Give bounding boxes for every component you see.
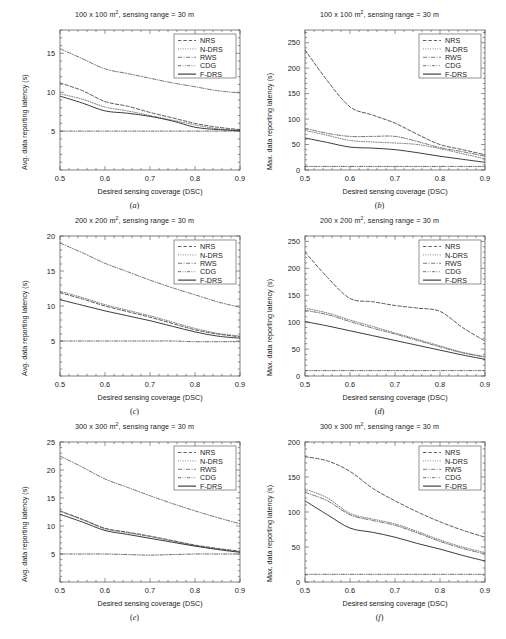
x-tick-label: 0.7 bbox=[145, 380, 155, 389]
y-tick-label: 0 bbox=[296, 166, 300, 175]
curve-n-drs bbox=[305, 130, 485, 159]
x-tick-label: 0.8 bbox=[435, 380, 445, 389]
x-tick-label: 0.6 bbox=[100, 586, 110, 595]
subplot-b: 100 x 100 m2, sensing range = 30 mMax. d… bbox=[253, 8, 506, 221]
subplot-d: 200 x 200 m2, sensing range = 30 mMax. d… bbox=[253, 214, 506, 427]
x-tick-label: 0.7 bbox=[145, 586, 155, 595]
y-tick-label: 50 bbox=[292, 345, 300, 354]
curve-f-drs bbox=[60, 514, 240, 552]
y-tick-label: 5 bbox=[51, 550, 55, 559]
curve-f-drs bbox=[305, 322, 485, 360]
curve-nrs bbox=[60, 511, 240, 551]
y-tick-label: 25 bbox=[47, 438, 55, 447]
x-tick-label: 0.8 bbox=[190, 174, 200, 183]
x-tick-label: 0.9 bbox=[480, 380, 490, 389]
figure-six-panel-line-charts: 100 x 100 m2, sensing range = 30 mAvg. d… bbox=[0, 0, 506, 639]
curve-n-drs bbox=[305, 489, 485, 553]
y-tick-label: 150 bbox=[288, 291, 300, 300]
legend-label-f-drs: F-DRS bbox=[200, 276, 222, 285]
legend-d: NRSN-DRSRWSCDGF-DRS bbox=[419, 240, 481, 285]
x-tick-label: 0.8 bbox=[190, 586, 200, 595]
y-tick-label: 150 bbox=[288, 473, 300, 482]
legend-c: NRSN-DRSRWSCDGF-DRS bbox=[174, 240, 236, 285]
x-tick-label: 0.9 bbox=[235, 380, 245, 389]
y-tick-label: 200 bbox=[288, 64, 300, 73]
x-tick-label: 0.8 bbox=[190, 380, 200, 389]
curve-cdg bbox=[60, 554, 240, 555]
x-tick-label: 0.5 bbox=[55, 586, 65, 595]
y-tick-label: 0 bbox=[296, 372, 300, 381]
x-tick-label: 0.9 bbox=[480, 174, 490, 183]
legend-label-f-drs: F-DRS bbox=[445, 70, 467, 79]
x-tick-label: 0.5 bbox=[55, 174, 65, 183]
legend-e: NRSN-DRSRWSCDGF-DRS bbox=[174, 446, 236, 491]
y-tick-label: 15 bbox=[47, 267, 55, 276]
plot-area-a: 0.50.60.70.80.951015NRSN-DRSRWSCDGF-DRS bbox=[8, 8, 261, 208]
plot-area-c: 0.50.60.70.80.95101520NRSN-DRSRWSCDGF-DR… bbox=[8, 214, 261, 414]
y-tick-label: 10 bbox=[47, 522, 55, 531]
curve-f-drs bbox=[305, 138, 485, 162]
y-tick-label: 100 bbox=[288, 318, 300, 327]
y-tick-label: 100 bbox=[288, 508, 300, 517]
curve-n-drs bbox=[60, 511, 240, 551]
y-tick-label: 15 bbox=[47, 49, 55, 58]
curve-rws bbox=[305, 492, 485, 554]
x-tick-label: 0.7 bbox=[390, 380, 400, 389]
legend-f: NRSN-DRSRWSCDGF-DRS bbox=[419, 446, 481, 491]
subplot-c: 200 x 200 m2, sensing range = 30 mAvg. d… bbox=[8, 214, 261, 427]
x-tick-label: 0.6 bbox=[345, 174, 355, 183]
y-tick-label: 250 bbox=[288, 237, 300, 246]
subplot-f: 300 x 300 m2, sensing range = 30 mMax. d… bbox=[253, 420, 506, 633]
x-tick-label: 0.5 bbox=[300, 586, 310, 595]
y-tick-label: 5 bbox=[51, 127, 55, 136]
y-tick-label: 10 bbox=[47, 302, 55, 311]
legend-b: NRSN-DRSRWSCDGF-DRS bbox=[419, 34, 481, 79]
subplot-a: 100 x 100 m2, sensing range = 30 mAvg. d… bbox=[8, 8, 261, 221]
y-tick-label: 200 bbox=[288, 264, 300, 273]
y-tick-label: 20 bbox=[47, 466, 55, 475]
curve-nrs bbox=[60, 293, 240, 337]
y-tick-label: 250 bbox=[288, 38, 300, 47]
plot-area-b: 0.50.60.70.80.9050100150200250NRSN-DRSRW… bbox=[253, 8, 506, 208]
x-tick-label: 0.9 bbox=[235, 586, 245, 595]
x-tick-label: 0.7 bbox=[145, 174, 155, 183]
curve-rws bbox=[305, 128, 485, 156]
x-tick-label: 0.6 bbox=[345, 380, 355, 389]
x-tick-label: 0.9 bbox=[235, 174, 245, 183]
y-tick-label: 50 bbox=[292, 140, 300, 149]
subplot-e: 300 x 300 m2, sensing range = 30 mAvg. d… bbox=[8, 420, 261, 633]
x-tick-label: 0.6 bbox=[345, 586, 355, 595]
plot-area-f: 0.50.60.70.80.9050100150200NRSN-DRSRWSCD… bbox=[253, 420, 506, 620]
x-tick-label: 0.7 bbox=[390, 174, 400, 183]
x-tick-label: 0.5 bbox=[300, 174, 310, 183]
curve-n-drs bbox=[60, 291, 240, 336]
x-tick-label: 0.7 bbox=[390, 586, 400, 595]
y-tick-label: 20 bbox=[47, 232, 55, 241]
legend-label-f-drs: F-DRS bbox=[445, 276, 467, 285]
x-tick-label: 0.8 bbox=[435, 174, 445, 183]
x-tick-label: 0.8 bbox=[435, 586, 445, 595]
curve-rws bbox=[305, 310, 485, 357]
curve-f-drs bbox=[60, 96, 240, 130]
y-tick-label: 50 bbox=[292, 543, 300, 552]
legend-label-f-drs: F-DRS bbox=[445, 482, 467, 491]
x-tick-label: 0.9 bbox=[480, 586, 490, 595]
curve-f-drs bbox=[305, 501, 485, 561]
y-tick-label: 200 bbox=[288, 438, 300, 447]
x-tick-label: 0.5 bbox=[55, 380, 65, 389]
plot-area-e: 0.50.60.70.80.9510152025NRSN-DRSRWSCDGF-… bbox=[8, 420, 261, 620]
legend-a: NRSN-DRSRWSCDGF-DRS bbox=[174, 34, 236, 79]
legend-label-f-drs: F-DRS bbox=[200, 482, 222, 491]
x-tick-label: 0.5 bbox=[300, 380, 310, 389]
x-tick-label: 0.6 bbox=[100, 380, 110, 389]
y-tick-label: 150 bbox=[288, 89, 300, 98]
curve-cdg bbox=[60, 341, 240, 342]
y-tick-label: 0 bbox=[296, 578, 300, 587]
y-tick-label: 100 bbox=[288, 115, 300, 124]
plot-area-d: 0.50.60.70.80.9050100150200250NRSN-DRSRW… bbox=[253, 214, 506, 414]
x-tick-label: 0.6 bbox=[100, 174, 110, 183]
legend-label-f-drs: F-DRS bbox=[200, 70, 222, 79]
y-tick-label: 10 bbox=[47, 88, 55, 97]
y-tick-label: 15 bbox=[47, 494, 55, 503]
y-tick-label: 5 bbox=[51, 337, 55, 346]
